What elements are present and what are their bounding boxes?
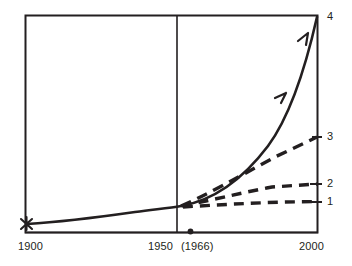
main-growth-curve	[27, 17, 317, 224]
x-tick-label-1900: 1900	[18, 240, 43, 252]
y-tick-label-1: 1	[327, 195, 333, 207]
y-tick-label-2: 2	[327, 177, 333, 189]
chart-canvas	[0, 0, 352, 266]
present-year-dot-marker	[188, 229, 194, 235]
x-tick-label-1950: 1950	[148, 240, 173, 252]
y-tick-label-4: 4	[327, 10, 333, 22]
curve-arrow-lower-icon	[275, 93, 286, 103]
growth-projection-chart: 1900 1950 (1966) 2000 1 2 3 4	[0, 0, 352, 266]
plot-frame	[26, 16, 318, 233]
x-tick-label-2000: 2000	[299, 240, 324, 252]
projection-high-curve	[181, 137, 317, 206]
x-tick-label-1966: (1966)	[181, 240, 213, 252]
y-tick-label-3: 3	[327, 130, 333, 142]
curve-arrow-upper-icon	[298, 33, 308, 45]
